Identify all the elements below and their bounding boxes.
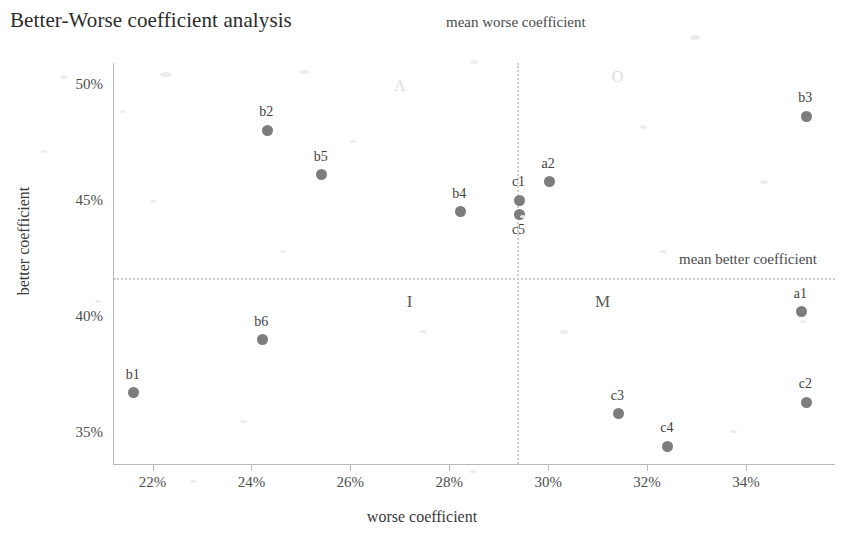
x-tick-label: 28% [436,474,464,491]
x-tick-label: 24% [238,474,266,491]
quadrant-label-i: I [407,292,413,312]
quadrant-label-a: A [394,77,406,95]
data-point[interactable] [796,306,807,317]
data-point-label: c5 [512,222,525,238]
y-tick-label: 45% [76,192,104,209]
x-tick-label: 34% [732,474,760,491]
data-point[interactable] [613,408,624,419]
scan-artifact [350,140,356,143]
scan-artifact [470,60,478,64]
scan-artifact [120,110,126,113]
data-point-label: a2 [542,156,555,172]
y-axis-tick-labels: 50%45%40%35% [45,63,103,465]
y-axis-title: better coefficient [15,141,33,341]
data-point-label: b4 [452,186,466,202]
scan-artifact [280,250,286,253]
x-tick-mark [350,465,351,471]
reference-label-mean-better: mean better coefficient [679,251,817,268]
data-point-label: b1 [126,367,140,383]
data-point-label: b3 [798,90,812,106]
data-point[interactable] [455,206,466,217]
scan-artifact [560,330,568,334]
y-tick-label: 35% [76,424,104,441]
data-point-label: a1 [794,286,807,302]
data-point-label: b5 [314,149,328,165]
scan-artifact [640,125,647,129]
scan-artifact [520,215,525,218]
scan-artifact [420,330,427,333]
data-point[interactable] [801,397,812,408]
scan-artifact [190,480,197,483]
reference-line-mean-better [114,278,835,280]
data-point-label: b2 [259,104,273,120]
x-tick-mark [449,465,450,471]
x-axis-title: worse coefficient [0,508,844,526]
x-tick-label: 26% [337,474,365,491]
x-tick-label: 22% [139,474,167,491]
scan-artifact [300,70,309,74]
data-point[interactable] [544,176,555,187]
data-point[interactable] [801,111,812,122]
data-point-label: b6 [254,314,268,330]
scan-artifact [160,72,172,77]
scatter-chart: Better-Worse coefficient analysis 50%45%… [0,0,844,547]
data-point[interactable] [262,125,273,136]
x-tick-label: 32% [633,474,661,491]
scan-artifact [95,300,101,303]
scan-artifact [150,200,156,203]
quadrant-label-o: O [612,68,624,86]
data-point[interactable] [257,334,268,345]
scan-artifact [760,180,768,184]
data-point-label: c1 [512,174,525,190]
x-tick-mark [746,465,747,471]
reference-line-mean-worse [517,63,519,464]
x-tick-mark [548,465,549,471]
scan-artifact [800,320,806,323]
scan-artifact [240,420,247,423]
page-title: Better-Worse coefficient analysis [10,8,292,33]
data-point[interactable] [514,195,525,206]
scan-artifact [60,75,67,79]
scan-artifact [730,430,737,433]
x-tick-label: 30% [534,474,562,491]
x-tick-mark [647,465,648,471]
data-point[interactable] [128,387,139,398]
data-point-label: c2 [799,376,812,392]
scan-artifact [690,35,700,40]
data-point-label: c3 [611,388,624,404]
data-point[interactable] [662,441,673,452]
scan-artifact [40,150,47,153]
data-point[interactable] [316,169,327,180]
quadrant-label-m: M [595,292,610,312]
y-tick-label: 40% [76,308,104,325]
x-tick-mark [251,465,252,471]
data-point-label: c4 [660,420,673,436]
x-tick-mark [153,465,154,471]
x-axis-tick-labels: 22%24%26%28%30%32%34% [113,474,835,496]
reference-label-mean-worse: mean worse coefficient [446,14,586,31]
y-tick-label: 50% [76,75,104,92]
scan-artifact [470,470,476,473]
scan-artifact [660,250,667,253]
